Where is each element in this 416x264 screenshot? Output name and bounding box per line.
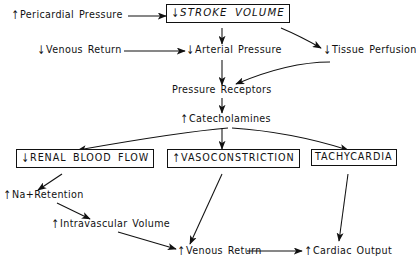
node-label: VASOCONSTRICTION	[181, 153, 295, 163]
node-label: TACHYCARDIA	[315, 152, 392, 162]
up-arrow-icon: ↑	[177, 245, 185, 257]
edge-catecholamines-to-tachycardia	[232, 128, 348, 150]
node-cardiac-output: ↑ Cardiac Output	[303, 245, 392, 257]
up-arrow-icon: ↑	[51, 218, 59, 230]
node-pericardial-pressure: ↑ Pericardial Pressure	[10, 9, 123, 21]
node-intravascular-volume: ↑ Intravascular Volume	[50, 218, 170, 230]
up-arrow-icon: ↑	[11, 9, 19, 21]
edge-vasoconstriction-to-venous-return	[190, 174, 222, 244]
node-tissue-perfusion: ↓ Tissue Perfusion	[322, 44, 416, 56]
node-pressure-receptors: Pressure Receptors	[172, 85, 272, 95]
node-tachycardia: TACHYCARDIA	[311, 149, 397, 166]
node-label: Pressure Receptors	[172, 85, 272, 95]
node-label: Pericardial Pressure	[20, 10, 123, 20]
edge-tachycardia-to-cardiac-output	[339, 174, 348, 241]
node-vasoconstriction: ↑ VASOCONSTRICTION	[167, 149, 300, 168]
node-arterial-pressure: ↓ Arterial Pressure	[185, 44, 282, 56]
up-arrow-icon: ↑	[172, 152, 180, 164]
node-label: Venous Return	[186, 246, 262, 256]
node-stroke-volume: ↓ STROKE VOLUME	[166, 4, 290, 23]
down-arrow-icon: ↓	[323, 44, 331, 56]
edge-intravascular-volume-to-venous-return	[118, 232, 176, 249]
node-na-retention: ↑ Na+ Retention	[2, 189, 84, 201]
node-label: Arterial Pressure	[195, 45, 282, 55]
flowchart-canvas: ↑ Pericardial Pressure ↓ STROKE VOLUME ↓…	[0, 0, 416, 264]
down-arrow-icon: ↓	[186, 44, 194, 56]
edge-tissue-perfusion-to-pressure-receptors	[236, 62, 330, 84]
up-arrow-icon: ↑	[180, 113, 188, 125]
edge-na-retention-to-intravascular-volume	[57, 203, 90, 219]
up-arrow-icon: ↑	[304, 245, 312, 257]
down-arrow-icon: ↓	[21, 152, 29, 164]
down-arrow-icon: ↓	[37, 44, 45, 56]
down-arrow-icon: ↓	[171, 7, 179, 19]
node-label-prefix: Na	[12, 190, 26, 200]
node-label: Cardiac Output	[313, 246, 392, 256]
edge-stroke-volume-to-tissue-perfusion	[281, 28, 321, 48]
node-label: Catecholamines	[189, 114, 271, 124]
node-catecholamines: ↑ Catecholamines	[179, 113, 271, 125]
node-label: Tissue Perfusion	[332, 45, 416, 55]
node-label: Intravascular Volume	[60, 219, 170, 229]
node-label: STROKE VOLUME	[180, 8, 285, 18]
edge-catecholamines-to-renal-blood-flow	[78, 128, 228, 150]
node-venous-return-bottom: ↑ Venous Return	[176, 245, 262, 257]
node-venous-return-top: ↓ Venous Return	[36, 44, 122, 56]
node-label: Venous Return	[46, 45, 122, 55]
node-label: RENAL BLOOD FLOW	[30, 153, 149, 163]
edge-renal-blood-flow-to-na-retention	[38, 174, 62, 190]
up-arrow-icon: ↑	[3, 189, 11, 201]
node-renal-blood-flow: ↓ RENAL BLOOD FLOW	[16, 149, 154, 168]
node-label-suffix: Retention	[34, 190, 83, 200]
